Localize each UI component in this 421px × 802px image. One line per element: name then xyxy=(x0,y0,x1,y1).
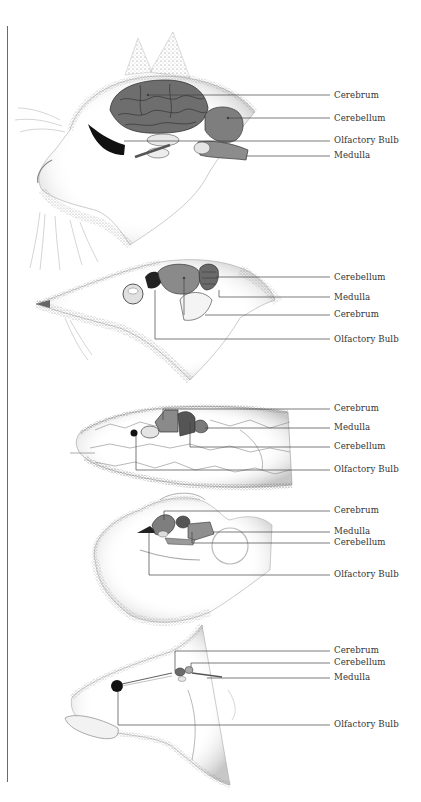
label-snake-olfactory-bulb: Olfactory Bulb xyxy=(334,464,399,474)
snake-head-illustration xyxy=(70,406,330,487)
shrew-head-illustration xyxy=(36,260,330,380)
fish-cerebellum xyxy=(185,667,193,674)
figure-canvas: Cerebrum Cerebellum Olfactory Bulb Medul… xyxy=(0,0,421,802)
cat-cerebellum xyxy=(205,107,243,142)
snake-olfactory-bulb xyxy=(131,430,138,437)
label-fish-cerebellum: Cerebellum xyxy=(334,657,386,667)
label-shrew-medulla: Medulla xyxy=(334,292,370,302)
label-fish-olfactory-bulb: Olfactory Bulb xyxy=(334,719,399,729)
snake-cerebellum xyxy=(178,412,195,436)
fish-olfactory-bulb xyxy=(111,680,123,692)
label-snake-cerebellum: Cerebellum xyxy=(334,441,386,451)
label-cat-cerebrum: Cerebrum xyxy=(334,90,379,100)
frog-head-illustration xyxy=(94,493,330,622)
label-cat-olfactory-bulb: Olfactory Bulb xyxy=(334,135,399,145)
label-cat-medulla: Medulla xyxy=(334,150,370,160)
cat-ear-left xyxy=(125,38,152,75)
label-fish-cerebrum: Cerebrum xyxy=(334,645,379,655)
label-shrew-cerebellum: Cerebellum xyxy=(334,272,386,282)
label-snake-cerebrum: Cerebrum xyxy=(334,403,379,413)
cat-ear-right xyxy=(150,32,190,78)
label-fish-medulla: Medulla xyxy=(334,672,370,682)
label-snake-medulla: Medulla xyxy=(334,422,370,432)
label-frog-medulla: Medulla xyxy=(334,526,370,536)
label-frog-cerebellum: Cerebellum xyxy=(334,537,386,547)
fish-head-illustration xyxy=(65,625,330,785)
label-frog-cerebrum: Cerebrum xyxy=(334,505,379,515)
label-shrew-olfactory-bulb: Olfactory Bulb xyxy=(334,334,399,344)
fish-cerebrum xyxy=(175,668,185,676)
label-shrew-cerebrum: Cerebrum xyxy=(334,309,379,319)
cat-head-illustration xyxy=(15,32,330,270)
label-frog-olfactory-bulb: Olfactory Bulb xyxy=(334,569,399,579)
label-cat-cerebellum: Cerebellum xyxy=(334,113,386,123)
